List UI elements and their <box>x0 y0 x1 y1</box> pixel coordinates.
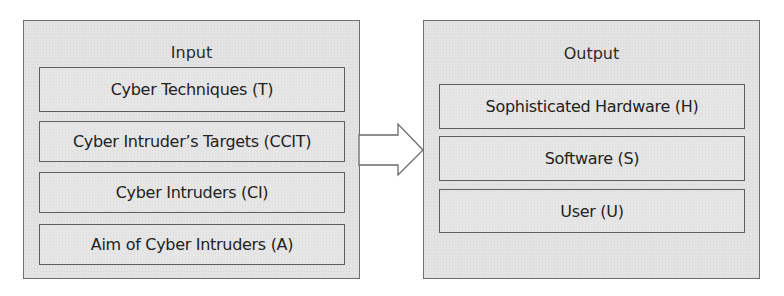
input-item-aim-of-cyber-intruders: Aim of Cyber Intruders (A) <box>39 224 345 265</box>
input-item-cyber-intruders: Cyber Intruders (CI) <box>39 172 345 213</box>
output-panel: Output Sophisticated Hardware (H) Softwa… <box>423 20 760 279</box>
input-item-cyber-techniques: Cyber Techniques (T) <box>39 67 345 112</box>
right-arrow-icon <box>357 120 427 180</box>
input-item-cyber-intruders-targets: Cyber Intruder’s Targets (CCIT) <box>39 121 345 162</box>
output-item-sophisticated-hardware: Sophisticated Hardware (H) <box>439 84 745 129</box>
input-panel: Input Cyber Techniques (T) Cyber Intrude… <box>23 20 360 279</box>
input-title: Input <box>24 43 359 62</box>
output-item-user: User (U) <box>439 189 745 233</box>
output-title: Output <box>424 44 759 63</box>
output-item-software: Software (S) <box>439 136 745 181</box>
